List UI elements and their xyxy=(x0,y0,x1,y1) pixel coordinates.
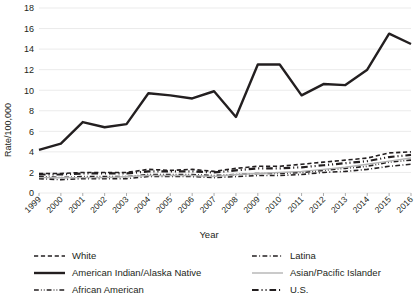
y-tick-label: 16 xyxy=(24,24,34,34)
chart-background xyxy=(0,0,419,305)
legend-label: American Indian/Alaska Native xyxy=(72,267,201,278)
y-tick-label: 14 xyxy=(24,44,34,54)
y-tick-label: 18 xyxy=(24,3,34,13)
legend-label: Asian/Pacific Islander xyxy=(290,267,381,278)
y-tick-label: 12 xyxy=(24,65,34,75)
line-chart: 024681012141618 199920002001200220032004… xyxy=(0,0,419,305)
legend-label: White xyxy=(72,250,96,261)
x-axis-title: Year xyxy=(199,229,218,240)
y-tick-label: 4 xyxy=(29,147,34,157)
chart-canvas: 024681012141618 199920002001200220032004… xyxy=(0,0,419,305)
legend-label: African American xyxy=(72,284,144,295)
legend-label: U.S. xyxy=(290,284,308,295)
y-tick-label: 2 xyxy=(29,168,34,178)
y-tick-label: 6 xyxy=(29,127,34,137)
y-tick-label: 8 xyxy=(29,106,34,116)
y-tick-label: 10 xyxy=(24,86,34,96)
legend-label: Latina xyxy=(290,250,317,261)
y-axis-title: Rate/100,000 xyxy=(3,103,13,157)
